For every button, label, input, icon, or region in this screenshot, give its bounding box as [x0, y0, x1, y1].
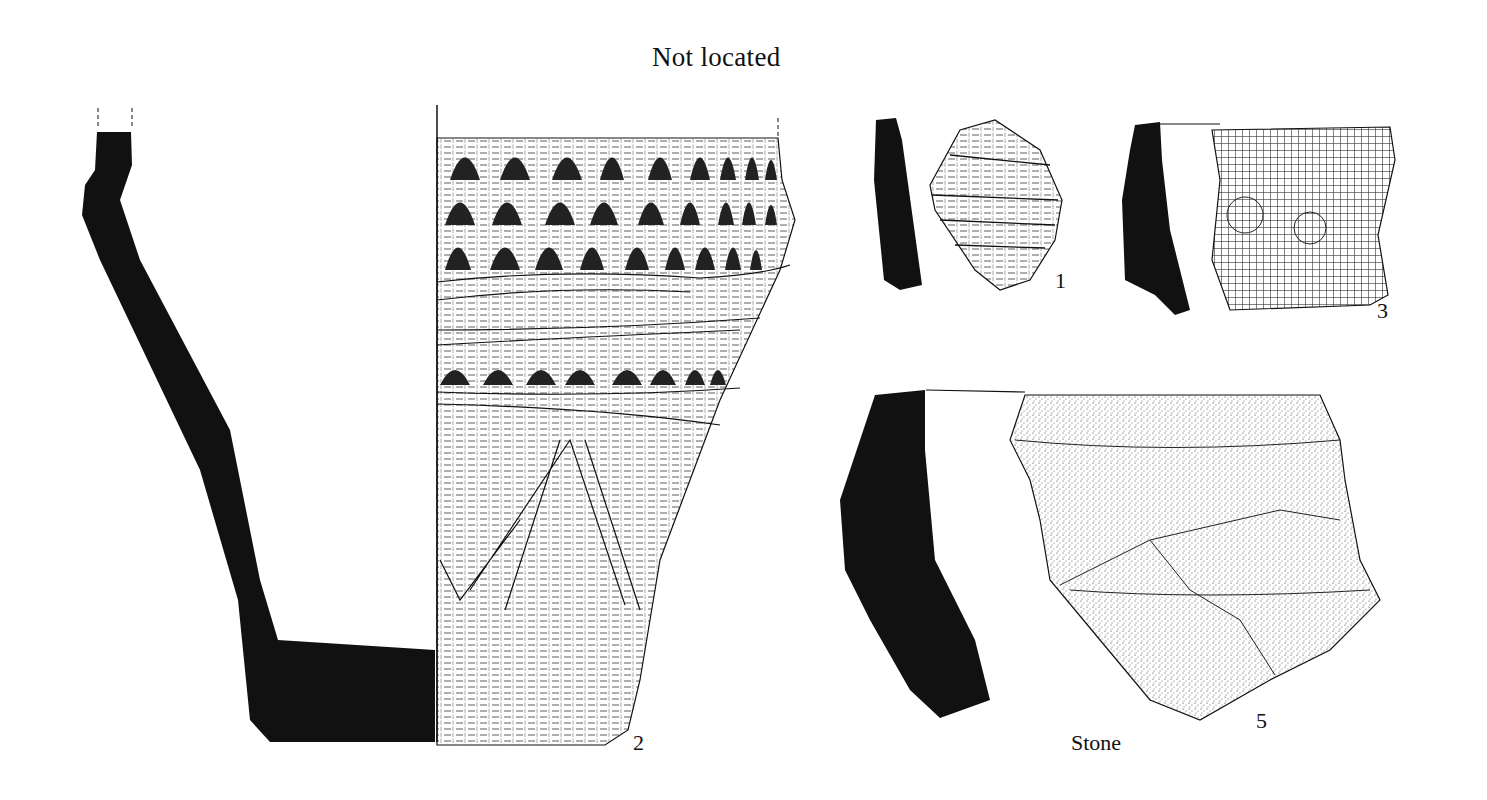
pottery-drawings [0, 0, 1487, 800]
fig3-sherd [1122, 122, 1395, 315]
fig5-label: 5 [1256, 708, 1267, 734]
material-label: Stone [1071, 730, 1121, 756]
fig2-label: 2 [633, 730, 644, 756]
fig1-sherd [874, 118, 1062, 290]
fig5-sherd [840, 390, 1380, 720]
fig3-label: 3 [1377, 298, 1388, 324]
fig2-section [82, 108, 435, 742]
fig1-label: 1 [1055, 268, 1066, 294]
fig2-exterior [437, 105, 795, 745]
